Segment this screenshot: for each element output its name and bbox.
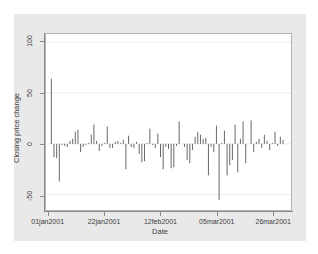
x-tick bbox=[217, 212, 218, 216]
y-tick-label-text: -50 bbox=[26, 191, 33, 201]
x-axis-title: Date bbox=[14, 227, 306, 236]
x-tick-label: 22jan2001 bbox=[88, 217, 121, 226]
y-tick-label: 50 bbox=[22, 93, 36, 94]
x-axis-line bbox=[44, 211, 293, 212]
spike-series bbox=[51, 79, 283, 200]
spike-plot-canvas bbox=[46, 34, 291, 210]
x-tick bbox=[273, 212, 274, 216]
plot-frame bbox=[45, 33, 292, 211]
gridlines bbox=[46, 42, 291, 195]
x-tick bbox=[160, 212, 161, 216]
y-tick-label: 100 bbox=[22, 41, 36, 42]
x-tick-label: 05mar2001 bbox=[199, 217, 234, 226]
y-tick-label-text: 100 bbox=[26, 35, 33, 47]
y-axis-title: Closing price change bbox=[10, 128, 24, 129]
y-axis-title-text: Closing price change bbox=[13, 92, 21, 162]
x-tick-label: 26mar2001 bbox=[255, 217, 290, 226]
y-tick-label-text: 50 bbox=[26, 89, 33, 97]
figure-panel: Closing price change -50050100 01jan2001… bbox=[14, 14, 306, 241]
x-tick bbox=[48, 212, 49, 216]
y-tick-label: -50 bbox=[22, 196, 36, 197]
x-tick-label: 01jan2001 bbox=[31, 217, 64, 226]
y-tick-label: 0 bbox=[22, 144, 36, 145]
x-tick bbox=[104, 212, 105, 216]
y-tick-label-text: 0 bbox=[26, 142, 33, 146]
x-tick-label: 12feb2001 bbox=[144, 217, 177, 226]
